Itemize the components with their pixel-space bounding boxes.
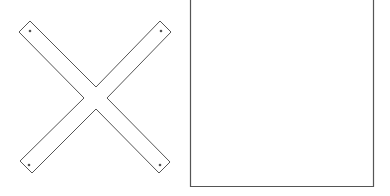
- hole-bottom-right: [159, 164, 162, 167]
- cross-outline: [19, 21, 171, 173]
- cross-brace: [19, 21, 171, 173]
- cross-holes: [28, 30, 163, 167]
- hole-bottom-left: [28, 164, 31, 167]
- diagram-canvas: [0, 0, 390, 196]
- hole-top-right: [160, 30, 163, 33]
- panel-outline: [191, 0, 374, 187]
- square-panel: [191, 0, 374, 187]
- hole-top-left: [29, 30, 32, 33]
